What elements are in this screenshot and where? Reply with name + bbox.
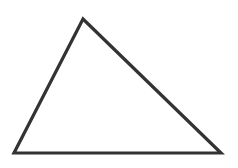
diagram-canvas (0, 0, 238, 168)
triangle-diagram (0, 0, 238, 168)
triangle-shape (14, 19, 221, 153)
